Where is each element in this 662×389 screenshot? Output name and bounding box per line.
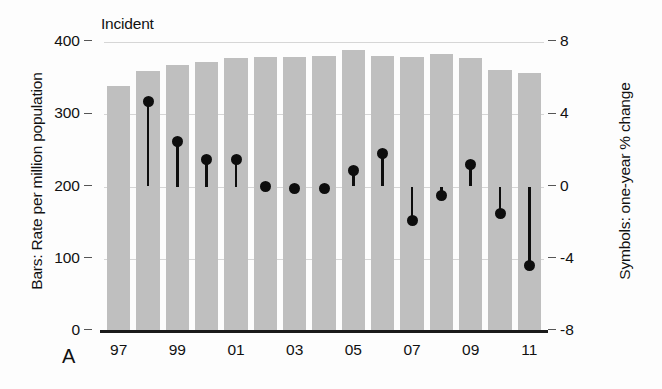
panel-letter: A: [62, 345, 75, 368]
y-axis-left-tick-label: 400: [46, 32, 92, 50]
tick-mark: [84, 40, 92, 41]
gridline: [104, 42, 544, 43]
symbol-dot: [143, 96, 154, 107]
symbol-dot: [201, 154, 212, 165]
x-axis-tick-label: 99: [157, 341, 197, 359]
symbol-stem: [528, 187, 531, 266]
bar: [342, 50, 365, 331]
bar: [107, 86, 130, 331]
symbol-dot: [495, 208, 506, 219]
symbol-dot: [319, 183, 330, 194]
tick-mark: [84, 329, 92, 330]
x-axis-tick-label: 07: [392, 341, 432, 359]
tick-mark: [84, 185, 92, 186]
chart-figure: Bars: Rate per million population Symbol…: [0, 0, 662, 389]
y-axis-left-tick-label: 100: [46, 249, 92, 267]
y-axis-right-title: Symbols: one-year % change: [616, 56, 634, 306]
x-axis-tick-label: 11: [509, 341, 549, 359]
bar: [459, 58, 482, 331]
plot-area: [104, 42, 544, 331]
x-axis-tick-label: 05: [333, 341, 373, 359]
tick-mark: [548, 113, 556, 114]
bar: [371, 56, 394, 331]
y-axis-right-tick-label: -8: [548, 321, 588, 339]
tick-mark: [84, 257, 92, 258]
panel-title: Incident: [101, 15, 154, 33]
y-axis-right-tick-label: 0: [548, 177, 588, 195]
y-axis-left-tick-label: 0: [46, 321, 92, 339]
tick-mark: [548, 40, 556, 41]
bar: [283, 57, 306, 331]
symbol-dot: [231, 154, 242, 165]
symbol-stem: [147, 102, 150, 187]
bar: [166, 65, 189, 331]
y-axis-right-tick-label: 8: [548, 32, 588, 50]
x-axis-line: [100, 330, 548, 333]
symbol-dot: [260, 181, 271, 192]
symbol-dot: [172, 136, 183, 147]
bar: [224, 58, 247, 331]
y-axis-right-tick-label: -4: [548, 249, 588, 267]
symbol-dot: [289, 183, 300, 194]
bar: [195, 62, 218, 331]
y-axis-right-tick-label: 4: [548, 104, 588, 122]
y-axis-left-tick-label: 300: [46, 104, 92, 122]
bar: [254, 57, 277, 331]
symbol-dot: [348, 165, 359, 176]
tick-mark: [548, 257, 556, 258]
y-axis-left-title: Bars: Rate per million population: [28, 56, 46, 306]
tick-mark: [548, 185, 556, 186]
x-axis-tick-label: 01: [216, 341, 256, 359]
symbol-dot: [407, 215, 418, 226]
tick-mark: [84, 113, 92, 114]
x-axis-tick-label: 09: [451, 341, 491, 359]
symbol-stem: [176, 141, 179, 186]
symbol-dot: [436, 190, 447, 201]
tick-mark: [548, 329, 556, 330]
x-axis-tick-label: 97: [99, 341, 139, 359]
y-axis-left-tick-label: 200: [46, 177, 92, 195]
x-axis-tick-label: 03: [275, 341, 315, 359]
